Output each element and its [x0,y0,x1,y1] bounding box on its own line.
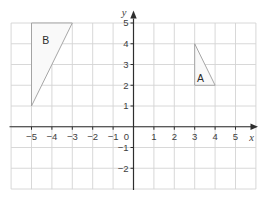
x-tick-label: 1 [151,131,156,142]
triangle-label-b: B [42,34,49,46]
y-tick-label: −1 [118,142,129,153]
x-tick-label: −2 [87,131,98,142]
coordinate-plane-svg: −5−4−3−2−112345−2−1123450xyBA [0,0,259,201]
coordinate-plane-figure: −5−4−3−2−112345−2−1123450xyBA [0,0,259,201]
y-tick-label: −2 [118,163,129,174]
x-tick-label: −5 [26,131,37,142]
x-tick-label: −3 [67,131,78,142]
x-tick-label: 3 [192,131,197,142]
y-tick-label: 1 [123,100,128,111]
x-tick-label: −4 [46,131,57,142]
y-axis-arrow-icon [130,11,136,19]
y-tick-label: 4 [123,38,128,49]
x-tick-label: 4 [212,131,217,142]
x-tick-label: 2 [172,131,177,142]
y-tick-label: 5 [123,17,128,28]
triangle-label-a: A [197,72,204,84]
x-axis-label: x [248,132,254,143]
y-axis-label: y [121,7,127,18]
y-tick-label: 3 [123,59,128,70]
x-axis-arrow-icon [251,124,259,130]
y-tick-label: 2 [123,80,128,91]
x-tick-label: −1 [108,131,119,142]
x-tick-label: 5 [233,131,238,142]
origin-label: 0 [124,131,129,142]
